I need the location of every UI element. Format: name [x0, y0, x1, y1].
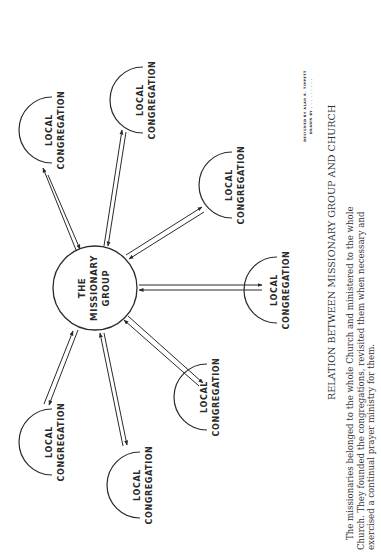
congregation-2-line2: CONGREGATION: [148, 61, 157, 140]
congregation-node-3: LOCAL CONGREGATION: [199, 146, 246, 225]
congregation-1-line2: CONGREGATION: [57, 91, 66, 170]
congregation-7-line1: LOCAL: [45, 426, 54, 458]
diagram-canvas: THE MISSIONARY GROUP LOCAL CONGREGATION …: [0, 0, 381, 556]
congregation-5-line2: CONGREGATION: [212, 358, 221, 437]
congregation-3-line1: LOCAL: [225, 169, 234, 201]
missionary-group-label-line1: THE: [77, 278, 87, 299]
congregation-4-line1: LOCAL: [270, 274, 279, 306]
title-text: RELATION BETWEEN MISSIONARY GROUP AND CH…: [326, 105, 337, 400]
congregation-node-2: LOCAL CONGREGATION: [110, 61, 157, 140]
arrow-pair-congregation-7: [44, 330, 78, 405]
missionary-group-node: THE MISSIONARY GROUP: [53, 246, 137, 330]
diagram-title: RELATION BETWEEN MISSIONARY GROUP AND CH…: [326, 105, 337, 400]
arrow-pair-congregation-6: [100, 333, 127, 446]
congregation-2-line1: LOCAL: [136, 84, 145, 116]
caption-line2: Church. They founded the congregations, …: [356, 211, 366, 550]
congregation-5-line1: LOCAL: [200, 381, 209, 413]
congregation-node-7: LOCAL CONGREGATION: [19, 403, 66, 482]
arrow-pair-congregation-2: [104, 130, 126, 246]
caption-line1: The missionaries belonged to the whole C…: [345, 207, 355, 540]
congregation-6-line2: CONGREGATION: [145, 446, 154, 525]
arrow-pair-congregation-3: [126, 207, 204, 259]
caption-line3: exercised a continual prayer ministry fo…: [366, 344, 376, 550]
missionary-group-label-line3: GROUP: [101, 270, 111, 307]
congregation-node-1: LOCAL CONGREGATION: [19, 91, 66, 170]
congregation-node-5: LOCAL CONGREGATION: [174, 358, 221, 437]
congregation-7-line2: CONGREGATION: [57, 403, 66, 482]
diagram-caption: The missionaries belonged to the whole C…: [345, 207, 376, 550]
congregation-4-line2: CONGREGATION: [282, 251, 291, 330]
credit-line2: DRAWN BY . . . . . . . . .: [309, 78, 313, 134]
credit-line1: DESIGNED BY ALAN R. TIPPETT: [303, 70, 307, 142]
congregation-3-line2: CONGREGATION: [237, 146, 246, 225]
congregation-1-line1: LOCAL: [45, 114, 54, 146]
arrow-pair-congregation-1: [43, 168, 80, 250]
congregation-6-line1: LOCAL: [133, 469, 142, 501]
credit-block: DESIGNED BY ALAN R. TIPPETT DRAWN BY . .…: [303, 70, 313, 142]
arrow-pair-congregation-5: [124, 316, 203, 386]
missionary-group-label-line2: MISSIONARY: [89, 255, 99, 321]
congregation-node-6: LOCAL CONGREGATION: [107, 446, 154, 525]
